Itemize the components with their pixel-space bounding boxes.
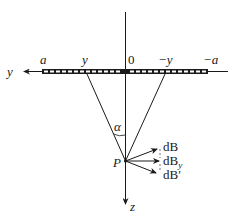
alpha-label: α xyxy=(114,119,122,134)
label-origin: 0 xyxy=(128,52,135,67)
label-neg-a: −a xyxy=(203,52,219,67)
point-p-label: P xyxy=(112,155,121,170)
current-strip-diagram: y z xyxy=(0,0,235,216)
label-neg-y: −y xyxy=(158,52,173,67)
point-p: P xyxy=(112,155,127,170)
vector-dBprime-label: dB′ xyxy=(163,167,181,182)
label-y: y xyxy=(80,52,88,67)
angle-alpha: α xyxy=(114,119,126,136)
z-axis: z xyxy=(126,12,136,214)
label-a: a xyxy=(40,52,47,67)
vector-dB-label: dB xyxy=(163,139,179,154)
y-axis-label: y xyxy=(5,64,13,79)
strip-labels: a y 0 −y −a xyxy=(40,52,219,67)
z-axis-label: z xyxy=(129,199,135,214)
field-vectors: dB dBy dB′ xyxy=(126,139,183,182)
current-strip xyxy=(42,69,208,74)
